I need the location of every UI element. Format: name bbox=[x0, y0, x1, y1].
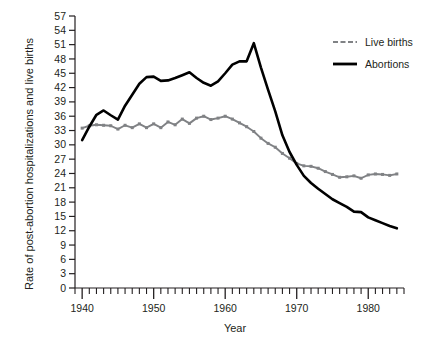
series-line-live-births bbox=[82, 116, 397, 178]
series-marker bbox=[381, 173, 384, 176]
series-marker bbox=[124, 124, 127, 127]
y-tick-label: 57 bbox=[54, 10, 66, 22]
x-axis-title-text: Year bbox=[224, 322, 247, 334]
series-marker bbox=[202, 115, 205, 118]
series-marker bbox=[259, 137, 262, 140]
series-marker bbox=[231, 118, 234, 121]
y-tick-label: 24 bbox=[54, 167, 66, 179]
y-tick-label: 0 bbox=[60, 282, 66, 294]
x-tick-label: 1940 bbox=[70, 302, 94, 314]
series-marker bbox=[102, 124, 105, 127]
series-marker bbox=[274, 146, 277, 149]
y-tick-label: 27 bbox=[54, 153, 66, 165]
y-tick-label: 39 bbox=[54, 95, 66, 107]
series-marker bbox=[116, 128, 119, 131]
y-tick-label: 21 bbox=[54, 181, 66, 193]
y-axis-title: Rate of post-abortion hospitalizations a… bbox=[23, 38, 35, 290]
series-marker bbox=[152, 122, 155, 125]
series-marker bbox=[338, 176, 341, 179]
y-tick-label: 51 bbox=[54, 38, 66, 50]
chart-figure: Rate of post-abortion hospitalizations a… bbox=[0, 0, 446, 349]
series-marker bbox=[166, 120, 169, 123]
series-marker bbox=[324, 170, 327, 173]
series-marker bbox=[109, 124, 112, 127]
x-tick-label: 1970 bbox=[285, 302, 309, 314]
series-marker bbox=[195, 117, 198, 120]
series-marker bbox=[245, 125, 248, 128]
series-marker bbox=[224, 115, 227, 118]
x-axis-title: Year bbox=[224, 322, 247, 334]
series-marker bbox=[360, 177, 363, 180]
y-axis-title-text: Rate of post-abortion hospitalizations a… bbox=[23, 38, 35, 290]
y-tick-label: 48 bbox=[54, 53, 66, 65]
x-axis-ticks: 19401950196019701980 bbox=[70, 288, 404, 314]
series-marker bbox=[352, 174, 355, 177]
y-tick-label: 42 bbox=[54, 81, 66, 93]
series-marker bbox=[395, 172, 398, 175]
y-tick-label: 30 bbox=[54, 138, 66, 150]
series-marker bbox=[281, 152, 284, 155]
y-tick-label: 18 bbox=[54, 196, 66, 208]
series-layer bbox=[81, 43, 399, 228]
series-line-abortions bbox=[82, 43, 397, 228]
y-axis-ticks: 036912151821242730333639424548515457 bbox=[54, 10, 75, 294]
series-marker bbox=[209, 118, 212, 121]
series-marker bbox=[288, 157, 291, 160]
y-tick-label: 54 bbox=[54, 24, 66, 36]
series-marker bbox=[217, 117, 220, 120]
legend-label: Live births bbox=[365, 36, 413, 48]
y-tick-label: 6 bbox=[60, 253, 66, 265]
y-tick-label: 33 bbox=[54, 124, 66, 136]
y-tick-label: 3 bbox=[60, 267, 66, 279]
series-marker bbox=[374, 172, 377, 175]
series-marker bbox=[238, 121, 241, 124]
series-marker bbox=[331, 173, 334, 176]
y-tick-label: 12 bbox=[54, 224, 66, 236]
chart-legend: Live birthsAbortions bbox=[333, 36, 413, 70]
legend-label: Abortions bbox=[365, 58, 409, 70]
series-marker bbox=[95, 123, 98, 126]
y-tick-label: 45 bbox=[54, 67, 66, 79]
y-tick-label: 15 bbox=[54, 210, 66, 222]
series-marker bbox=[131, 126, 134, 129]
x-tick-label: 1950 bbox=[142, 302, 166, 314]
series-marker bbox=[310, 165, 313, 168]
series-marker bbox=[181, 118, 184, 121]
series-marker bbox=[317, 167, 320, 170]
series-marker bbox=[174, 123, 177, 126]
series-marker bbox=[252, 130, 255, 133]
line-chart: Rate of post-abortion hospitalizations a… bbox=[0, 0, 446, 349]
series-marker bbox=[367, 173, 370, 176]
series-marker bbox=[267, 142, 270, 145]
series-marker bbox=[345, 175, 348, 178]
series-marker bbox=[145, 126, 148, 129]
y-tick-label: 9 bbox=[60, 239, 66, 251]
series-marker bbox=[388, 174, 391, 177]
series-marker bbox=[81, 127, 84, 130]
series-marker bbox=[138, 122, 141, 125]
series-marker bbox=[159, 126, 162, 129]
y-tick-label: 36 bbox=[54, 110, 66, 122]
series-marker bbox=[188, 122, 191, 125]
x-tick-label: 1980 bbox=[357, 302, 381, 314]
x-tick-label: 1960 bbox=[214, 302, 238, 314]
series-marker bbox=[302, 164, 305, 167]
